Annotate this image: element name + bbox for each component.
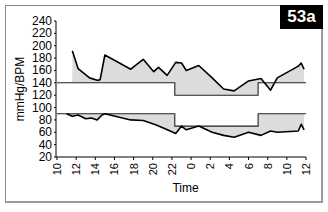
x-tick-label: 16 (108, 163, 120, 175)
x-tick-label: 8 (262, 163, 274, 169)
bp-chart-svg: 2402202001801601401201008060402010121416… (0, 0, 328, 212)
x-tick-label: 0 (185, 163, 197, 169)
x-tick-label: 18 (128, 163, 140, 175)
x-tick-label: 10 (51, 163, 63, 175)
y-axis-title: mmHg/BPM (13, 57, 27, 122)
chart-figure: 53a 240220200180160140120100806040201012… (0, 0, 328, 212)
x-tick-label: 6 (243, 163, 255, 169)
x-tick-label: 10 (281, 163, 293, 175)
x-axis-title: Time (172, 181, 199, 195)
x-tick-label: 14 (89, 163, 101, 175)
diastolic-excess-fill (67, 114, 305, 137)
x-tick-label: 12 (70, 163, 82, 175)
y-tick-label: 20 (39, 150, 53, 164)
x-tick-label: 20 (147, 163, 159, 175)
x-tick-label: 22 (166, 163, 178, 175)
x-tick-label: 4 (223, 163, 235, 169)
x-tick-label: 12 (300, 163, 312, 175)
x-tick-label: 2 (204, 163, 216, 169)
